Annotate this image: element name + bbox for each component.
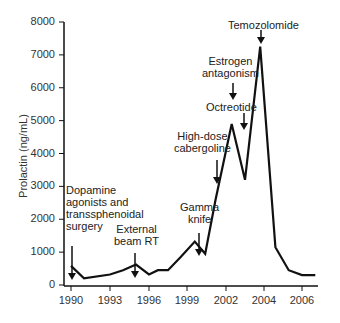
annotation-estrogen-antagonism: Estrogen antagonism: [202, 55, 259, 79]
y-tick-label: 7000: [15, 48, 55, 60]
arrow-down-icon: [195, 249, 203, 256]
x-tick-label: 2004: [244, 294, 284, 306]
arrow-down-icon: [131, 271, 139, 278]
y-tick-label: 0: [15, 278, 55, 290]
annotation-gamma-knife: Gamma knife: [180, 201, 219, 225]
prolactin-line-chart: Prolactin (ng/mL) 0100020003000400050006…: [0, 0, 340, 323]
y-tick-label: 3000: [15, 179, 55, 191]
arrow-down-icon: [240, 123, 248, 130]
y-tick-label: 2000: [15, 212, 55, 224]
x-tick-label: 1999: [167, 294, 207, 306]
x-tick-label: 2006: [282, 294, 322, 306]
y-tick-label: 1000: [15, 245, 55, 257]
annotation-high-dose-cabergoline: High-dose cabergoline: [174, 130, 231, 154]
x-tick-label: 2002: [206, 294, 246, 306]
arrow-down-icon: [257, 37, 265, 44]
y-tick-label: 5000: [15, 114, 55, 126]
y-tick-label: 6000: [15, 81, 55, 93]
annotation-octreotide: Octreotide: [206, 101, 257, 113]
arrow-down-icon: [229, 93, 237, 100]
annotation-temozolomide: Temozolomide: [228, 19, 299, 31]
y-tick-label: 4000: [15, 147, 55, 159]
x-tick-label: 1993: [90, 294, 130, 306]
x-tick-label: 1996: [129, 294, 169, 306]
y-tick-label: 8000: [15, 15, 55, 27]
x-tick-label: 1990: [51, 294, 91, 306]
annotation-external-beam-rt: External beam RT: [114, 223, 159, 247]
prolactin-series-line: [71, 47, 315, 279]
arrow-down-icon: [68, 273, 76, 280]
